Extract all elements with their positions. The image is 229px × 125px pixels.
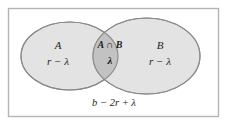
region-label-outside: b − 2r + λ <box>64 97 164 108</box>
region-b-name: B <box>132 40 188 52</box>
region-intersection-count: λ <box>83 55 137 67</box>
region-label-b: B r − λ <box>132 40 188 67</box>
region-label-a: A r − λ <box>30 40 86 67</box>
region-b-count: r − λ <box>132 56 188 68</box>
region-a-count: r − λ <box>30 56 86 68</box>
region-label-intersection: A ∩ B λ <box>83 40 137 66</box>
region-a-name: A <box>30 40 86 52</box>
venn-diagram-figure: A r − λ A ∩ B λ B r − λ b − 2r + λ <box>0 0 229 125</box>
region-intersection-name: A ∩ B <box>83 40 137 51</box>
region-outside-count: b − 2r + λ <box>64 97 164 108</box>
